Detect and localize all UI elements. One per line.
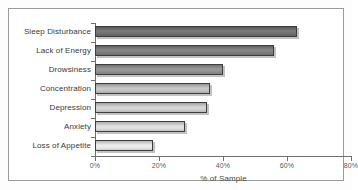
bar [95,83,210,94]
bar [95,64,223,75]
x-axis-tick [159,157,160,161]
plot-area [95,23,351,156]
y-axis-tick [91,61,95,62]
bar [95,121,185,132]
y-axis-tick [91,23,95,24]
y-axis-tick [91,99,95,100]
x-axis-tick-label: 0% [90,162,100,169]
category-label: Concentration [40,84,91,93]
y-axis-tick [91,80,95,81]
y-axis-tick [91,137,95,138]
bar [95,26,297,37]
x-axis-tick [95,157,96,161]
chart-frame: Sleep DisturbanceLack of EnergyDrowsines… [8,8,344,181]
bar [95,140,153,151]
x-axis-tick [223,157,224,161]
x-axis-tick-label: 40% [216,162,230,169]
category-label: Anxiety [64,122,91,131]
x-axis-title: % of Sample [95,174,352,183]
x-axis-tick-label: 20% [152,162,166,169]
y-axis-tick [91,118,95,119]
category-label: Loss of Appetite [32,141,91,150]
x-axis-tick-label: 80% [344,162,358,169]
category-label: Drowsiness [49,65,91,74]
bar [95,45,274,56]
x-axis-tick-label: 60% [280,162,294,169]
x-axis-tick [351,157,352,161]
bar [95,102,207,113]
category-axis-labels: Sleep DisturbanceLack of EnergyDrowsines… [19,23,91,156]
category-label: Sleep Disturbance [24,27,91,36]
category-label: Lack of Energy [36,46,91,55]
y-axis-tick [91,42,95,43]
category-label: Depression [50,103,91,112]
x-axis-tick [287,157,288,161]
